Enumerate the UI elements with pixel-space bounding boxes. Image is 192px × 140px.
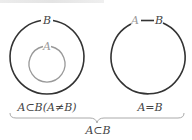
equal-sets-circle [111,23,185,94]
grouping-brace [10,113,184,123]
right-caption: A=B [136,101,162,114]
left-caption: A⊂B(A≠B) [16,101,76,114]
equal-set-a-label: A [130,14,139,27]
right-figure: A B A=B [111,14,185,114]
set-a-label: A [42,40,51,53]
set-b-circle [10,21,84,95]
brace-caption: A⊂B [84,124,110,137]
set-b-label: B [42,14,51,27]
subset-venn-diagram: B A A⊂B(A≠B) A B A=B A⊂B [0,0,192,140]
equal-set-b-label: B [154,14,163,27]
left-figure: B A A⊂B(A≠B) [10,14,84,114]
